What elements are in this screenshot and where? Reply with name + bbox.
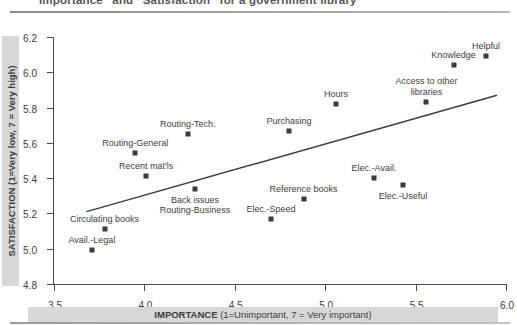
data-point-label: Elec.-Avail. (352, 163, 397, 174)
data-point-label-line: Routing-Tech. (160, 119, 216, 130)
data-point-marker (193, 186, 198, 191)
page-title: “Importance” and “Satisfaction” for a go… (0, 0, 517, 7)
data-point-marker (451, 63, 456, 68)
data-point-label-line: libraries (395, 87, 457, 98)
chart-container: “Importance” and “Satisfaction” for a go… (0, 0, 517, 325)
data-point-marker (89, 248, 94, 253)
data-point-label-line: Knowledge (431, 50, 476, 61)
x-axis-tick-label: 6.0 (500, 300, 514, 311)
data-point-label: Recent mat'ls (119, 161, 173, 172)
y-axis-tick: 6.2 (47, 37, 54, 38)
y-axis-tick: 5.4 (47, 178, 54, 179)
data-point-label: Reference books (269, 184, 337, 195)
data-point-marker (287, 128, 292, 133)
data-point-label: Routing-Tech. (160, 119, 216, 130)
x-axis-label-bold: IMPORTANCE (154, 309, 220, 320)
data-point-label: Elec.-Speed (246, 203, 295, 214)
data-point-label-line: Access to other (395, 76, 457, 87)
data-point-marker (372, 176, 377, 181)
y-axis-tick-label: 5.0 (23, 244, 37, 255)
data-point-label: Knowledge (431, 50, 476, 61)
data-point-label-line: Avail.-Legal (69, 235, 116, 246)
x-axis-tick: 5.5 (416, 284, 417, 291)
data-point-marker (301, 197, 306, 202)
data-point-label: Access to otherlibraries (395, 76, 457, 97)
title-divider (10, 11, 510, 13)
y-axis-tick: 6.0 (47, 72, 54, 73)
chart-title-clip: “Importance” and “Satisfaction” for a go… (0, 0, 517, 7)
data-point-label-line: Helpful (472, 41, 500, 52)
data-point-label-line: Back issues (160, 195, 231, 206)
x-axis-label: IMPORTANCE (1=Unimportant, 7 = Very impo… (154, 309, 371, 320)
y-axis-tick-label: 5.6 (23, 138, 37, 149)
data-point-marker (268, 216, 273, 221)
x-axis-label-detail: (1=Unimportant, 7 = Very important) (220, 309, 372, 320)
y-axis-tick: 5.6 (47, 143, 54, 144)
data-point-label: Routing-General (102, 138, 168, 149)
y-axis-tick-label: 5.8 (23, 103, 37, 114)
data-point-marker (185, 132, 190, 137)
data-point-marker (133, 151, 138, 156)
data-point-label: Circulating books (70, 214, 139, 225)
data-point-label: Avail.-Legal (69, 235, 116, 246)
data-point-label: Purchasing (267, 115, 312, 126)
data-point-label-line: Purchasing (267, 115, 312, 126)
data-point-label-line: Recent mat'ls (119, 161, 173, 172)
bottom-divider (10, 322, 510, 324)
y-axis-tick: 5.2 (47, 213, 54, 214)
data-point-label-line: Circulating books (70, 214, 139, 225)
y-axis-label: SATISFACTION (1=Very low, 7 = Very high) (5, 65, 16, 256)
data-point-label: Elec.-Useful (379, 191, 428, 202)
data-point-label-line: Routing-Business (160, 205, 231, 216)
data-point-marker (102, 227, 107, 232)
data-point-marker (400, 183, 405, 188)
y-axis-tick: 4.8 (47, 284, 54, 285)
x-axis-tick: 5.0 (325, 284, 326, 291)
data-point-label: Helpful (472, 41, 500, 52)
data-point-marker (484, 54, 489, 59)
x-axis-tick: 6.0 (506, 284, 507, 291)
data-point-label-line: Elec.-Useful (379, 191, 428, 202)
data-point-label-line: Hours (324, 89, 348, 100)
x-axis-tick: 4.0 (144, 284, 145, 291)
y-axis-band: SATISFACTION (1=Very low, 7 = Very high) (2, 36, 19, 286)
data-point-label-line: Elec.-Avail. (352, 163, 397, 174)
data-point-marker (144, 174, 149, 179)
x-axis-tick: 3.5 (54, 284, 55, 291)
data-point-marker (424, 100, 429, 105)
y-axis-tick: 5.8 (47, 108, 54, 109)
plot-area: 4.85.05.25.45.65.86.06.23.54.04.55.05.56… (53, 37, 506, 285)
data-point-label-line: Elec.-Speed (246, 203, 295, 214)
y-axis-tick-label: 5.4 (23, 174, 37, 185)
y-axis-tick-label: 5.2 (23, 209, 37, 220)
data-point-label: Hours (324, 89, 348, 100)
x-axis-tick: 4.5 (235, 284, 236, 291)
data-point-marker (334, 102, 339, 107)
data-point-label: Back issuesRouting-Business (160, 195, 231, 216)
y-axis-tick-label: 6.2 (23, 33, 37, 44)
data-point-label-line: Reference books (269, 184, 337, 195)
x-axis-band: IMPORTANCE (1=Unimportant, 7 = Very impo… (28, 307, 498, 322)
y-axis-tick-label: 4.8 (23, 280, 37, 291)
data-point-label-line: Routing-General (102, 138, 168, 149)
y-axis-tick: 5.0 (47, 249, 54, 250)
y-axis-tick-label: 6.0 (23, 68, 37, 79)
